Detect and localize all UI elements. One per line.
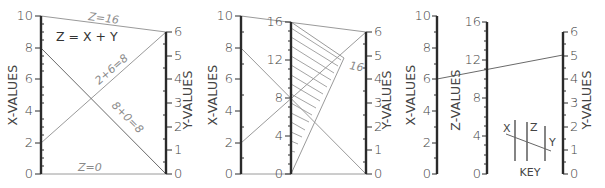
z-axis-label: Z-VALUES xyxy=(448,69,463,130)
y-tick-0: 0 xyxy=(374,166,382,181)
y-tick-5: 5 xyxy=(174,48,182,63)
key-legend: X Z Y KEY xyxy=(503,120,556,179)
y-tick-1: 1 xyxy=(374,142,382,157)
x-axis-label: X-VALUES xyxy=(403,65,418,126)
x-tick-2: 2 xyxy=(225,135,233,150)
x-tick-0: 0 xyxy=(25,166,33,181)
x-axis-ticks xyxy=(235,16,244,174)
y-tick-3: 3 xyxy=(570,95,578,110)
panel-1: 0 2 4 6 8 10 X-VALUES 0 1 2 3 4 5 6 xyxy=(5,8,195,181)
y-tick-5: 5 xyxy=(374,48,382,63)
z-tick-12: 12 xyxy=(464,52,481,67)
z-tick-16: 16 xyxy=(464,14,481,29)
z-tick-0: 0 xyxy=(275,166,283,181)
x-tick-4: 4 xyxy=(25,103,33,118)
annotation-z16: Z=16 xyxy=(87,10,120,27)
x-tick-8: 8 xyxy=(25,40,33,55)
y-tick-6: 6 xyxy=(174,24,182,39)
z-tick-0: 0 xyxy=(473,166,481,181)
key-diagonal xyxy=(506,134,551,151)
y-axis-label: Y-VALUES xyxy=(579,70,594,130)
x-tick-6: 6 xyxy=(25,71,33,86)
z-tick-16: 16 xyxy=(266,14,283,29)
z-tick-4: 4 xyxy=(473,128,481,143)
x-tick-4: 4 xyxy=(225,103,233,118)
x-tick-4: 4 xyxy=(423,103,431,118)
y-tick-6: 6 xyxy=(570,24,578,39)
line-8-to-0 xyxy=(241,48,366,174)
nomograph-diagram: 0 2 4 6 8 10 X-VALUES 0 1 2 3 4 5 6 xyxy=(0,0,605,188)
y-axis-ticks xyxy=(363,32,372,174)
line-2plus6 xyxy=(41,32,166,143)
x-tick-10: 10 xyxy=(414,8,431,23)
x-axis-ticks xyxy=(35,16,44,174)
z-tick-8: 8 xyxy=(473,90,481,105)
x-tick-2: 2 xyxy=(423,135,431,150)
x-tick-0: 0 xyxy=(423,166,431,181)
key-label-y: Y xyxy=(548,136,556,149)
y-axis-label: Y-VALUES xyxy=(379,70,394,130)
x-axis-label: X-VALUES xyxy=(5,65,20,126)
x-axis-label: X-VALUES xyxy=(205,65,220,126)
hatch-area xyxy=(291,28,341,152)
line-top xyxy=(241,16,366,32)
z-tick-8: 8 xyxy=(275,90,283,105)
x-tick-6: 6 xyxy=(423,71,431,86)
y-tick-0: 0 xyxy=(174,166,182,181)
annotation-8plus0: 8+0=8 xyxy=(109,99,146,136)
x-tick-0: 0 xyxy=(225,166,233,181)
annotation-2plus6: 2+6=8 xyxy=(92,52,130,88)
z-tick-12: 12 xyxy=(266,52,283,67)
y-tick-0: 0 xyxy=(570,166,578,181)
key-label-x: X xyxy=(503,122,511,135)
annotation-z0: Z=0 xyxy=(77,161,102,174)
y-tick-1: 1 xyxy=(174,142,182,157)
x-tick-2: 2 xyxy=(25,135,33,150)
x-tick-6: 6 xyxy=(225,71,233,86)
y-tick-2: 2 xyxy=(570,119,578,134)
y-tick-4: 4 xyxy=(570,71,578,86)
y-tick-5: 5 xyxy=(570,48,578,63)
line-2-to-6 xyxy=(241,32,366,143)
x-tick-8: 8 xyxy=(225,40,233,55)
z-tick-4: 4 xyxy=(275,128,283,143)
panel-2: 0 2 4 6 8 10 X-VALUES 0 4 xyxy=(205,8,394,181)
y-axis-label: Y-VALUES xyxy=(180,70,195,130)
x-tick-10: 10 xyxy=(216,8,233,23)
panel-3: 0 2 4 6 8 10 X-VALUES 0 4 xyxy=(403,8,594,181)
x-tick-8: 8 xyxy=(423,40,431,55)
y-axis-ticks xyxy=(163,32,172,174)
y-tick-1: 1 xyxy=(570,142,578,157)
x-tick-10: 10 xyxy=(16,8,33,23)
hatch-top-edge xyxy=(291,22,344,58)
equation-label: Z = X + Y xyxy=(56,29,118,44)
key-title: KEY xyxy=(520,166,541,179)
key-label-z: Z xyxy=(530,121,538,134)
hatch-label-16: 16 xyxy=(348,59,364,74)
y-tick-6: 6 xyxy=(374,24,382,39)
